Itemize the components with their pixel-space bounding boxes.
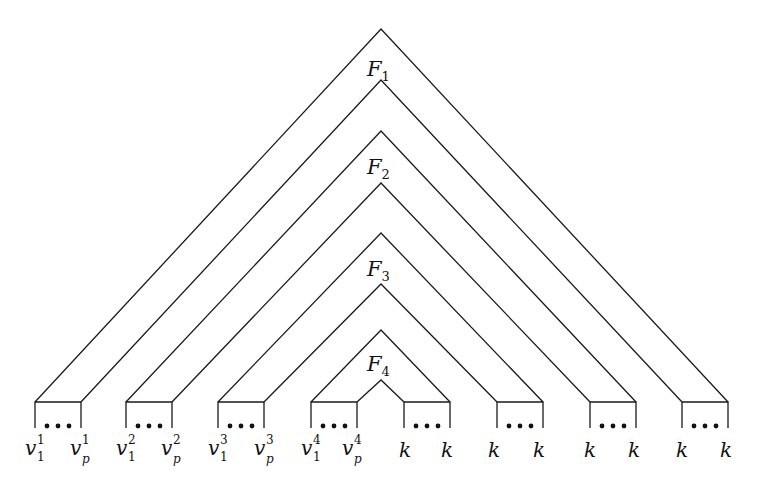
triangle-lines xyxy=(35,29,728,402)
label-f2: F2 xyxy=(366,155,390,182)
dots-box-7 xyxy=(600,424,627,429)
label-f1: F1 xyxy=(366,57,390,84)
leaf-3-left-sup: 3 xyxy=(220,433,228,447)
leaf-3-right-sup: 3 xyxy=(266,433,274,447)
leaf-1-left-label: v xyxy=(25,436,37,460)
leaf-5-left-label: k xyxy=(399,438,411,462)
label-f4: F4 xyxy=(366,352,390,379)
leaf-6-left-label: k xyxy=(488,438,500,462)
leaf-3-labels: v 3 1 v 3 p xyxy=(208,433,274,466)
leaf-5-right-label: k xyxy=(441,438,453,462)
leaf-7-right-label: k xyxy=(628,438,640,462)
leaf-4-right-label: v xyxy=(342,436,354,460)
leaf-1-right-sup: 1 xyxy=(82,433,90,447)
leaf-4-left-sup: 4 xyxy=(313,433,321,447)
f3-inner-triangle xyxy=(264,284,497,402)
leaf-7-left-label: k xyxy=(584,438,596,462)
leaf-1-left-sup: 1 xyxy=(37,433,45,447)
leaf-1-right-sub: p xyxy=(82,452,90,466)
leaf-2-left-sub: 1 xyxy=(128,450,136,464)
leaf-1-labels: v 1 1 v 1 p xyxy=(25,433,90,466)
leaf-labels: v 1 1 v 1 p v 2 1 v 2 p v 3 1 v 3 p v 4 xyxy=(25,433,732,466)
f4-inner-triangle xyxy=(357,380,404,402)
leaf-3-left-label: v xyxy=(208,436,220,460)
leaf-8-left-label: k xyxy=(676,438,688,462)
dots-box-8 xyxy=(692,424,719,429)
leaf-4-left-label: v xyxy=(301,436,313,460)
leaf-4-labels: v 4 1 v 4 p xyxy=(301,433,362,466)
leaf-2-left-label: v xyxy=(116,436,128,460)
dots-box-1 xyxy=(45,424,72,429)
leaf-1-left-sub: 1 xyxy=(37,450,45,464)
dots-box-4 xyxy=(321,424,348,429)
leaf-2-left-sup: 2 xyxy=(128,433,136,447)
f1-outer-triangle xyxy=(35,29,728,402)
dots-box-2 xyxy=(136,424,163,429)
leaf-2-right-sup: 2 xyxy=(173,433,181,447)
nested-formula-diagram: F1 F2 F3 F4 v 1 1 v 1 p v 2 1 v 2 p v 3 … xyxy=(0,0,764,496)
dots-box-6 xyxy=(507,424,534,429)
dots-box-5 xyxy=(414,424,441,429)
ellipsis-dots xyxy=(45,424,719,429)
label-f3: F3 xyxy=(366,257,390,284)
leaf-6-right-label: k xyxy=(533,438,545,462)
leaf-2-right-sub: p xyxy=(173,452,181,466)
leaf-3-right-sub: p xyxy=(266,452,274,466)
leaf-1-right-label: v xyxy=(70,436,82,460)
leaf-4-right-sup: 4 xyxy=(354,433,362,447)
leaf-3-left-sub: 1 xyxy=(220,450,228,464)
leaf-4-left-sub: 1 xyxy=(313,450,321,464)
leaf-2-right-label: v xyxy=(161,436,173,460)
layer-labels: F1 F2 F3 F4 xyxy=(366,57,390,379)
leaf-8-right-label: k xyxy=(720,438,732,462)
leaf-2-labels: v 2 1 v 2 p xyxy=(116,433,181,466)
dots-box-3 xyxy=(228,424,255,429)
leaf-3-right-label: v xyxy=(254,436,266,460)
leaf-4-right-sub: p xyxy=(354,452,362,466)
